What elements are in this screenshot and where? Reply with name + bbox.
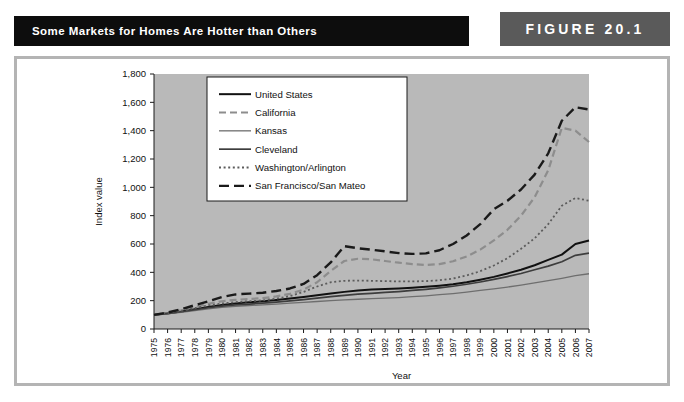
x-axis-tick-label: 2005: [557, 338, 567, 357]
legend-label: Cleveland: [255, 144, 298, 155]
y-axis-tick-label: 0: [141, 323, 146, 334]
x-axis-tick-label: 1999: [475, 338, 485, 357]
x-axis-tick-label: 2003: [530, 338, 540, 357]
x-axis-tick-label: 1991: [367, 338, 377, 357]
y-axis-tick-label: 600: [130, 238, 146, 249]
legend-label: United States: [255, 89, 313, 100]
y-axis-tick-label: 1,000: [122, 182, 146, 193]
x-axis-tick-label: 1987: [312, 338, 322, 357]
y-axis-tick-label: 1,200: [122, 153, 146, 164]
y-axis-tick-label: 1,600: [122, 97, 146, 108]
x-axis-tick-label: 1994: [407, 338, 417, 357]
chart-frame: 02004006008001,0001,2001,4001,6001,800In…: [14, 56, 670, 386]
x-axis-tick-label: 1984: [272, 338, 282, 357]
legend-label: Kansas: [255, 125, 287, 136]
x-axis-tick-label: 1989: [340, 338, 350, 357]
x-axis-tick-label: 1982: [244, 338, 254, 357]
y-axis-tick-label: 1,400: [122, 125, 146, 136]
y-axis-tick-label: 200: [130, 295, 146, 306]
x-axis-tick-label: 2002: [516, 338, 526, 357]
x-axis-tick-label: 1976: [163, 338, 173, 357]
x-axis-tick-label: 1978: [190, 338, 200, 357]
x-axis-tick-label: 1997: [448, 338, 458, 357]
x-axis-tick-label: 1977: [176, 338, 186, 357]
x-axis-tick-label: 2001: [503, 338, 513, 357]
x-axis-title: Year: [392, 370, 411, 381]
y-axis-tick-label: 400: [130, 267, 146, 278]
x-axis-tick-label: 1979: [204, 338, 214, 357]
x-axis-tick-label: 1975: [149, 338, 159, 357]
figure-title-bar: Some Markets for Homes Are Hotter than O…: [14, 16, 469, 46]
y-axis-tick-label: 1,800: [122, 68, 146, 79]
figure-number-label: FIGURE 20.1: [500, 12, 670, 46]
legend-label: California: [255, 107, 296, 118]
legend-label: San Francisco/San Mateo: [255, 180, 365, 191]
x-axis-tick-label: 1980: [217, 338, 227, 357]
x-axis-tick-label: 1992: [380, 338, 390, 357]
x-axis-tick-label: 1985: [285, 338, 295, 357]
x-axis-tick-label: 1986: [299, 338, 309, 357]
x-axis-tick-label: 1983: [258, 338, 268, 357]
line-chart: 02004006008001,0001,2001,4001,6001,800In…: [17, 59, 667, 383]
x-axis-tick-label: 1996: [435, 338, 445, 357]
x-axis-tick-label: 1998: [462, 338, 472, 357]
figure-number-box: FIGURE 20.1: [500, 12, 670, 46]
x-axis-tick-label: 1995: [421, 338, 431, 357]
figure-page: Some Markets for Homes Are Hotter than O…: [0, 0, 684, 402]
y-axis-title: Index value: [93, 177, 104, 226]
x-axis-tick-label: 1988: [326, 338, 336, 357]
x-axis-tick-label: 2000: [489, 338, 499, 357]
y-axis-tick-label: 800: [130, 210, 146, 221]
x-axis-tick-label: 2006: [571, 338, 581, 357]
page-title: Some Markets for Homes Are Hotter than O…: [32, 16, 317, 46]
x-axis-tick-label: 1981: [231, 338, 241, 357]
x-axis-tick-label: 1990: [353, 338, 363, 357]
x-axis-tick-label: 2004: [543, 338, 553, 357]
legend-label: Washington/Arlington: [255, 162, 346, 173]
x-axis-tick-label: 1993: [394, 338, 404, 357]
x-axis-tick-label: 2007: [584, 338, 594, 357]
